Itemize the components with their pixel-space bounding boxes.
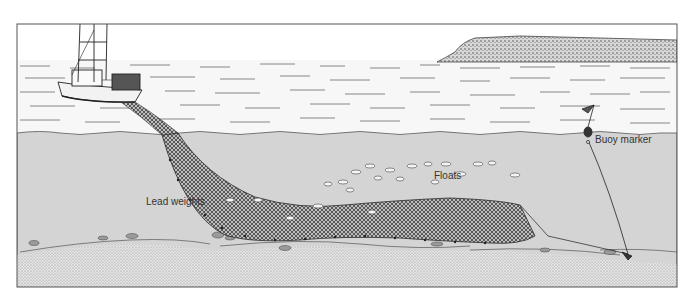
floats-label: Floats [434,171,461,181]
gillnet-diagram [0,0,694,295]
lead-weights-label: Lead weights [146,197,205,207]
island [437,36,677,62]
buoy-marker-label: Buoy marker [595,135,652,145]
